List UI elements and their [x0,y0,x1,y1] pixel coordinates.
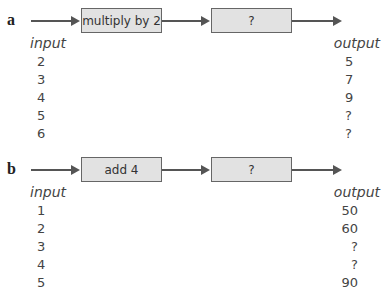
input-value: 4 [37,89,45,107]
output-value: 50 [340,202,358,220]
output-arrow [292,20,340,22]
input-value: 2 [37,220,45,238]
output-value: 5 [345,53,353,71]
input-value: 2 [37,53,45,71]
output-value: 60 [340,220,358,238]
part-label: a [7,11,15,29]
input-value: 3 [37,71,45,89]
output-value: ? [340,238,358,256]
output-header: output [334,184,380,200]
machine-box-1: add 4 [81,157,162,182]
output-column: 50 60 ? ? 90 [340,202,358,289]
machine-box-2: ? [211,157,292,182]
output-value: ? [345,125,353,143]
output-value: ? [345,107,353,125]
machine-box-1: multiply by 2 [81,8,162,33]
input-value: 6 [37,125,45,143]
input-value: 4 [37,256,45,274]
output-value: 9 [345,89,353,107]
input-arrow [31,20,78,22]
middle-arrow [162,169,208,171]
input-value: 1 [37,202,45,220]
input-header: input [30,35,66,51]
output-arrow [292,169,340,171]
function-machine-b: b add 4 ? input output 1 2 3 4 5 50 60 ?… [0,144,389,289]
function-machine-a: a multiply by 2 ? input output 2 3 4 5 6… [0,0,389,145]
input-column: 2 3 4 5 6 [37,53,45,143]
input-arrow [31,169,78,171]
input-value: 3 [37,238,45,256]
middle-arrow [162,20,208,22]
part-label: b [7,160,16,178]
machine-box-2: ? [211,8,292,33]
output-value: 7 [345,71,353,89]
output-header: output [334,35,380,51]
input-header: input [30,184,66,200]
output-value: ? [340,256,358,274]
output-value: 90 [340,274,358,289]
output-column: 5 7 9 ? ? [345,53,353,143]
input-value: 5 [37,107,45,125]
input-column: 1 2 3 4 5 [37,202,45,289]
input-value: 5 [37,274,45,289]
